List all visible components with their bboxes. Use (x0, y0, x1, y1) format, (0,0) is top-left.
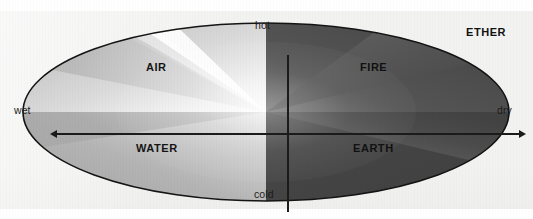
arrow-right-icon (519, 130, 526, 138)
arrow-left-icon (50, 130, 57, 138)
element-label-fire: FIRE (360, 61, 387, 73)
axis-wet-dry (55, 133, 523, 135)
axis-label-dry: dry (497, 104, 512, 116)
axis-label-hot: hot (255, 19, 270, 31)
region-label-ether: ETHER (466, 26, 506, 38)
axis-label-wet: wet (14, 104, 31, 116)
axis-label-cold: cold (254, 188, 274, 200)
ellipse-gradient-svg (22, 22, 510, 202)
element-label-earth: EARTH (353, 142, 394, 154)
elements-ellipse (22, 22, 510, 202)
element-label-water: WATER (136, 142, 178, 154)
element-label-air: AIR (146, 61, 167, 73)
axis-hot-cold (287, 55, 289, 212)
diagram-canvas: hot cold wet dry AIR FIRE WATER EARTH ET… (0, 0, 533, 219)
